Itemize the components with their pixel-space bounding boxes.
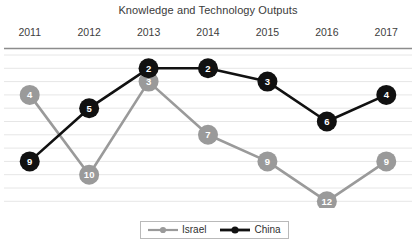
data-point-label-israel-2015: 9 — [265, 156, 270, 167]
chart-container: Knowledge and Technology Outputs 2011201… — [0, 0, 416, 249]
data-point-label-china-2012: 5 — [86, 103, 92, 114]
legend-item-israel[interactable]: Israel — [148, 224, 206, 236]
x-axis-label-row: 2011201220132014201520162017 — [0, 25, 416, 41]
x-tick-label-2014: 2014 — [178, 25, 238, 39]
x-tick-label-2015: 2015 — [237, 25, 297, 39]
data-point-label-china-2017: 4 — [384, 89, 390, 100]
legend-marker-china-icon — [220, 225, 250, 235]
chart-title: Knowledge and Technology Outputs — [0, 3, 416, 17]
legend-label-israel: Israel — [182, 224, 206, 236]
data-point-label-china-2011: 9 — [27, 156, 32, 167]
x-tick-label-2017: 2017 — [356, 25, 416, 39]
x-tick-label-2012: 2012 — [59, 25, 119, 39]
data-point-label-china-2016: 6 — [324, 116, 329, 127]
data-point-label-israel-2011: 4 — [27, 89, 33, 100]
data-point-label-china-2013: 2 — [146, 63, 151, 74]
x-tick-label-2011: 2011 — [0, 25, 60, 39]
data-point-label-china-2015: 3 — [265, 76, 270, 87]
chart-legend: Israel China — [140, 221, 289, 239]
series-china: 9522364 — [20, 58, 397, 171]
legend-item-china[interactable]: China — [220, 224, 280, 236]
legend-marker-israel-icon — [148, 225, 178, 235]
data-series-layer: 4103791299522364 — [0, 46, 416, 208]
data-point-label-israel-2014: 7 — [205, 129, 210, 140]
data-point-label-israel-2016: 12 — [322, 196, 333, 207]
data-point-label-israel-2017: 9 — [384, 156, 389, 167]
x-tick-label-2013: 2013 — [119, 25, 179, 39]
plot-area: 4103791299522364 — [0, 46, 416, 208]
data-point-label-china-2014: 2 — [205, 63, 210, 74]
series-israel: 410379129 — [20, 72, 397, 208]
x-tick-label-2016: 2016 — [297, 25, 357, 39]
data-point-label-israel-2012: 10 — [84, 169, 95, 180]
legend-label-china: China — [254, 224, 280, 236]
